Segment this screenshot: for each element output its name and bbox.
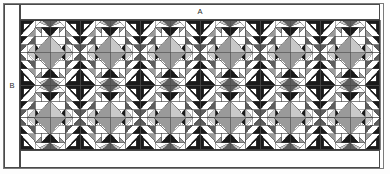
dimension-label-b: B bbox=[9, 81, 14, 90]
pattern-figure: A B bbox=[0, 0, 390, 174]
figure-canvas: A B bbox=[0, 0, 390, 174]
pattern-tiles bbox=[20, 20, 380, 150]
dimension-label-a: A bbox=[197, 7, 202, 16]
dimension-band-bottom bbox=[21, 151, 380, 168]
